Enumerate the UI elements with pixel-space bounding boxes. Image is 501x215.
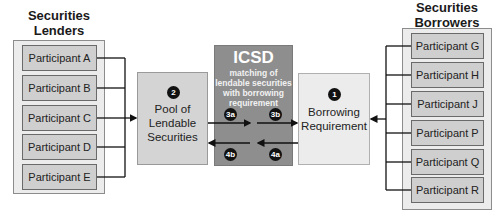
connector-lines: [0, 0, 501, 215]
